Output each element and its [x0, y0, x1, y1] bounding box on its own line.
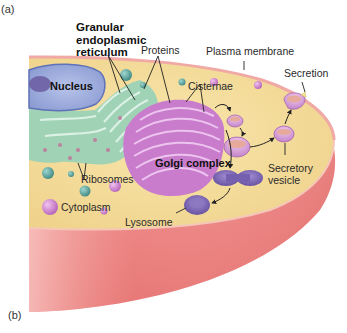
label-cisternae: Cisternae [188, 80, 233, 92]
panel-label-b: (b) [8, 309, 21, 321]
ribosome [179, 79, 186, 86]
panel-label-a: (a) [1, 3, 14, 15]
cytoplasm-granule [42, 199, 58, 215]
label-lysosome: Lysosome [125, 216, 172, 228]
label-nucleus: Nucleus [50, 80, 93, 92]
lysosome [184, 195, 210, 215]
label-granular-er: Granular endoplasmic reticulum [76, 21, 146, 59]
golgi-complex [123, 100, 224, 196]
label-plasma-membrane: Plasma membrane [206, 45, 294, 57]
ribosome [68, 171, 74, 177]
nucleolus [29, 76, 51, 92]
label-secretory-vesicle: Secretory vesicle [268, 162, 313, 186]
label-cytoplasm: Cytoplasm [61, 201, 111, 213]
ribosome [80, 186, 91, 197]
cytoplasm-granule [254, 81, 262, 89]
label-secretion: Secretion [284, 67, 328, 79]
ribosome [120, 69, 132, 81]
secretory-vesicle [274, 126, 294, 142]
label-golgi-complex: Golgi complex [155, 157, 231, 169]
ribosome [42, 167, 54, 179]
secretory-vesicle [224, 137, 250, 157]
secretory-vesicle [227, 115, 243, 127]
label-ribosomes: Ribosomes [81, 173, 134, 185]
label-proteins: Proteins [141, 44, 180, 56]
